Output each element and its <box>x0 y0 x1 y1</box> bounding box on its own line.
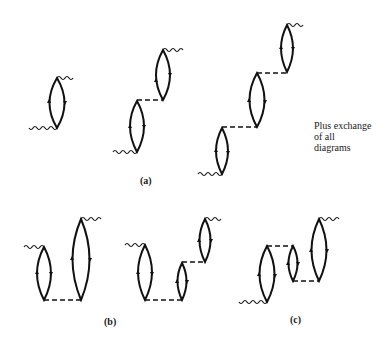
fermion-loop <box>178 263 187 300</box>
arrow-down-icon <box>168 73 172 77</box>
fermion-loop <box>200 219 211 262</box>
fermion-loop <box>250 73 265 127</box>
diagram-a1 <box>29 77 73 130</box>
fermion-loop <box>289 246 298 281</box>
arrow-up-icon <box>136 270 140 274</box>
arrow-up-icon <box>128 124 132 128</box>
fermion-loop <box>312 219 327 281</box>
photon-line-in <box>125 244 145 247</box>
photon-line-out <box>163 49 183 52</box>
fermion-loop <box>138 245 152 300</box>
photon-line-in <box>113 151 137 154</box>
fermion-loop <box>37 247 51 300</box>
note-line: of all <box>314 131 372 142</box>
note-line: diagrams <box>314 142 372 153</box>
photon-line-out <box>57 77 73 80</box>
diagram-c1 <box>239 218 339 304</box>
diagram-b2 <box>125 218 221 301</box>
feynman-diagram-figure <box>0 0 391 346</box>
group-label-a: (a) <box>140 175 152 186</box>
arrow-down-icon <box>49 272 53 276</box>
fermion-loop <box>73 219 90 300</box>
arrow-down-icon <box>291 47 295 51</box>
photon-line-in <box>198 173 222 176</box>
photon-line-out <box>287 24 303 27</box>
diagram-b1 <box>24 218 101 301</box>
arrow-down-icon <box>150 272 154 276</box>
arrow-up-icon <box>35 270 39 274</box>
fermion-loop <box>260 246 275 302</box>
fermion-loop <box>281 25 293 72</box>
arrow-up-icon <box>214 148 218 152</box>
arrow-down-icon <box>226 151 230 155</box>
photon-line-out <box>319 218 339 221</box>
arrow-up-icon <box>279 45 283 49</box>
exchange-note: Plus exchange of all diagrams <box>314 120 372 153</box>
photon-line-out <box>205 218 221 221</box>
fermion-loop <box>130 101 144 152</box>
fermion-loop <box>50 78 65 128</box>
group-label-b: (b) <box>104 316 116 327</box>
fermion-loop <box>156 50 170 100</box>
diagram-a3 <box>198 24 303 176</box>
photon-line-in <box>239 301 267 304</box>
diagram-a2 <box>113 49 183 154</box>
group-label-c: (c) <box>290 314 301 325</box>
arrow-up-icon <box>154 78 158 82</box>
arrow-down-icon <box>142 125 146 129</box>
photon-line-in <box>29 127 57 130</box>
note-line: Plus exchange <box>314 120 372 131</box>
photon-line-in <box>24 246 44 249</box>
photon-line-out <box>81 218 101 221</box>
